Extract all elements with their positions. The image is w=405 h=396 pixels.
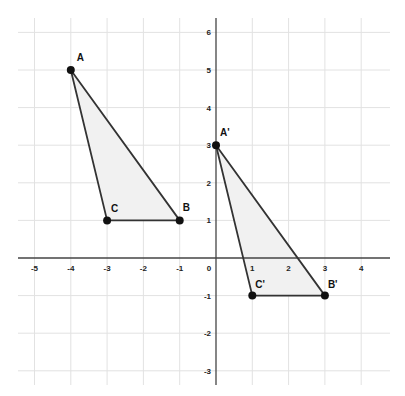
y-tick-label: 1 (207, 216, 212, 225)
vertex-point (321, 292, 329, 300)
vertex-label: C' (255, 279, 265, 290)
vertex-point (212, 141, 220, 149)
x-tick-label: 4 (359, 264, 364, 273)
coordinate-plane: -5-4-3-2-101234654321-1-2-3 ABCA'B'C' (0, 0, 405, 396)
y-tick-label: -1 (204, 292, 212, 301)
x-tick-label: -5 (31, 264, 39, 273)
y-tick-label: 5 (207, 66, 212, 75)
x-tick-label: -4 (67, 264, 75, 273)
vertex-point (103, 216, 111, 224)
x-tick-label: 1 (250, 264, 255, 273)
x-tick-label: -3 (104, 264, 112, 273)
y-tick-label: 3 (207, 141, 212, 150)
x-tick-label: 3 (323, 264, 328, 273)
vertex-label: B (183, 202, 190, 213)
y-tick-label: -2 (204, 329, 212, 338)
x-tick-label: -1 (176, 264, 184, 273)
y-tick-label: 2 (207, 179, 212, 188)
x-tick-label: 0 (207, 264, 212, 273)
y-tick-label: -3 (204, 367, 212, 376)
vertex-label: C (111, 203, 118, 214)
tick-labels: -5-4-3-2-101234654321-1-2-3 (31, 28, 364, 375)
y-tick-label: 6 (207, 28, 212, 37)
vertex-label: A (77, 52, 84, 63)
vertex-label: B' (328, 279, 338, 290)
vertex-label: A' (220, 127, 230, 138)
vertex-point (248, 292, 256, 300)
x-tick-label: 2 (286, 264, 291, 273)
vertex-point (176, 216, 184, 224)
vertex-point (67, 66, 75, 74)
x-tick-label: -2 (140, 264, 148, 273)
y-tick-label: 4 (207, 104, 212, 113)
